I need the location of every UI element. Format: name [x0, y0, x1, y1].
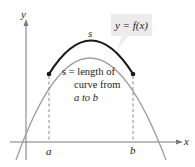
- function-label-box: y = f(x): [111, 14, 152, 36]
- annotation-line-1: s = length of: [62, 65, 120, 78]
- y-axis-label: y: [21, 9, 26, 20]
- arc-label-s: s: [88, 28, 92, 39]
- annotation-line-3: a to b: [62, 91, 120, 104]
- x-axis-label: x: [184, 136, 189, 147]
- annotation-line-2: curve from: [62, 78, 120, 91]
- arc-length-annotation: s = length of curve from a to b: [62, 65, 120, 104]
- arc-length-diagram: y = f(x) y x a b s s = length of curve f…: [0, 0, 195, 167]
- point-a: [47, 72, 52, 77]
- b-label: b: [130, 145, 136, 156]
- y-axis-arrow-icon: [24, 19, 29, 26]
- a-label: a: [46, 146, 52, 157]
- function-label: y = f(x): [115, 19, 148, 31]
- x-axis-arrow-icon: [176, 140, 183, 145]
- point-b: [131, 72, 136, 77]
- label-pointer: [117, 36, 128, 50]
